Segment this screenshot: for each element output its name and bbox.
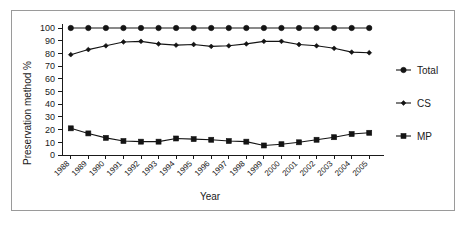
x-tick-label: 1996 (193, 159, 212, 178)
data-point-cs (174, 43, 179, 48)
data-point-mp (367, 130, 372, 135)
x-tick-label: 1994 (158, 159, 177, 178)
y-tick-label: 20 (45, 125, 55, 135)
data-point-total (156, 25, 161, 30)
data-point-total (331, 25, 336, 30)
x-tick-label: 2000 (263, 159, 282, 178)
data-point-cs (86, 47, 91, 52)
x-tick-label: 2001 (280, 159, 299, 178)
y-tick-label: 10 (45, 138, 55, 148)
x-tick-label: 1992 (122, 159, 141, 178)
y-axis-tick-marks (58, 28, 62, 155)
data-point-total (279, 25, 284, 30)
y-tick-label: 80 (45, 49, 55, 59)
legend-label-cs: CS (417, 98, 431, 109)
series-cs (68, 39, 371, 57)
data-point-mp (261, 143, 266, 148)
data-point-cs (349, 50, 354, 55)
data-point-mp (103, 135, 108, 140)
series-mp (68, 126, 371, 148)
data-point-cs (156, 41, 161, 46)
data-point-mp (209, 137, 214, 142)
y-tick-label: 40 (45, 99, 55, 109)
x-tick-label: 1999 (245, 159, 264, 178)
data-point-cs (68, 52, 73, 57)
legend-marker-mp (401, 134, 406, 139)
data-point-total (296, 25, 301, 30)
data-point-total (209, 25, 214, 30)
data-point-mp (191, 137, 196, 142)
legend-item-cs[interactable]: CS (396, 98, 431, 109)
x-tick-label: 2005 (351, 159, 370, 178)
line-chart: Preservation method % 010203040506070809… (0, 0, 467, 227)
data-point-total (226, 25, 231, 30)
series-line-mp (71, 128, 369, 145)
series-layer (68, 25, 372, 148)
y-tick-label: 70 (45, 61, 55, 71)
y-tick-label: 100 (40, 23, 55, 33)
data-point-total (103, 25, 108, 30)
data-point-mp (121, 139, 126, 144)
chart-legend: TotalCSMP (396, 65, 438, 142)
data-point-total (173, 25, 178, 30)
data-point-total (349, 25, 354, 30)
y-axis-tick-labels: 0102030405060708090100 (40, 23, 55, 160)
x-axis-tick-labels: 1988198919901991199219931994199519961997… (52, 159, 370, 178)
data-point-mp (174, 136, 179, 141)
data-point-total (121, 25, 126, 30)
x-tick-label: 1993 (140, 159, 159, 178)
data-point-cs (279, 39, 284, 44)
legend-marker-total (401, 67, 406, 72)
series-total (68, 25, 372, 30)
y-tick-label: 50 (45, 87, 55, 97)
data-point-mp (244, 139, 249, 144)
x-tick-label: 1995 (175, 159, 194, 178)
x-tick-label: 1997 (210, 159, 229, 178)
x-tick-label: 1988 (52, 159, 71, 178)
data-point-cs (209, 44, 214, 49)
data-point-mp (332, 135, 337, 140)
x-axis-title: Year (200, 191, 221, 202)
data-point-cs (297, 42, 302, 47)
series-line-cs (71, 41, 369, 54)
data-point-cs (103, 43, 108, 48)
legend-marker-cs (401, 101, 406, 106)
x-tick-label: 2002 (298, 159, 317, 178)
x-tick-label: 2003 (316, 159, 335, 178)
data-point-cs (332, 46, 337, 51)
data-point-mp (226, 139, 231, 144)
y-tick-label: 60 (45, 74, 55, 84)
y-tick-label: 30 (45, 112, 55, 122)
data-point-cs (121, 40, 126, 45)
data-point-cs (261, 39, 266, 44)
y-tick-label: 90 (45, 36, 55, 46)
x-tick-label: 1998 (228, 159, 247, 178)
data-point-cs (367, 50, 372, 55)
figure-canvas: Preservation method % 010203040506070809… (0, 0, 467, 227)
data-point-total (138, 25, 143, 30)
data-point-mp (314, 137, 319, 142)
data-point-cs (139, 39, 144, 44)
data-point-mp (349, 132, 354, 137)
x-tick-label: 1991 (105, 159, 124, 178)
data-point-cs (314, 43, 319, 48)
legend-item-total[interactable]: Total (396, 65, 438, 76)
data-point-total (314, 25, 319, 30)
x-axis-tick-marks (71, 155, 369, 159)
data-point-total (261, 25, 266, 30)
data-point-mp (297, 140, 302, 145)
data-point-mp (86, 131, 91, 136)
data-point-cs (226, 43, 231, 48)
legend-label-total: Total (417, 65, 438, 76)
data-point-mp (156, 139, 161, 144)
data-point-total (86, 25, 91, 30)
data-point-mp (139, 139, 144, 144)
y-tick-label: 0 (50, 150, 55, 160)
data-point-total (191, 25, 196, 30)
x-tick-label: 2004 (333, 159, 352, 178)
legend-item-mp[interactable]: MP (396, 131, 432, 142)
data-point-mp (68, 126, 73, 131)
data-point-total (367, 25, 372, 30)
x-tick-label: 1989 (70, 159, 89, 178)
data-point-cs (191, 42, 196, 47)
